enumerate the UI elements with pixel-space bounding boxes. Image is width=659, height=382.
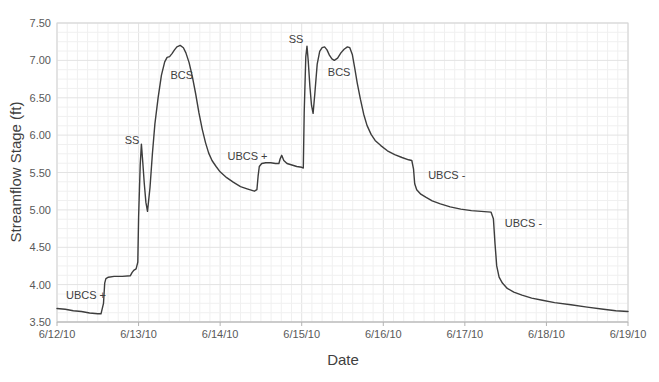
x-tick-label: 6/19/10 xyxy=(610,328,647,340)
annotation-label: BCS xyxy=(170,69,193,81)
y-tick-label: 5.00 xyxy=(30,204,51,216)
annotation-label: SS xyxy=(289,33,304,45)
y-tick-label: 6.50 xyxy=(30,92,51,104)
x-tick-label: 6/18/10 xyxy=(528,328,565,340)
chart-plot-area: 6/12/106/13/106/14/106/15/106/16/106/17/… xyxy=(0,0,659,382)
x-tick-label: 6/12/10 xyxy=(39,328,76,340)
x-tick-label: 6/14/10 xyxy=(202,328,239,340)
x-tick-label: 6/15/10 xyxy=(283,328,320,340)
y-tick-label: 7.50 xyxy=(30,17,51,29)
y-tick-label: 6.00 xyxy=(30,129,51,141)
annotation-label: BCS xyxy=(328,66,351,78)
y-tick-label: 4.00 xyxy=(30,279,51,291)
annotation-label: UBCS + xyxy=(66,289,106,301)
annotation-label: UBCS + xyxy=(227,150,267,162)
annotation-label: SS xyxy=(125,134,140,146)
y-tick-label: 7.00 xyxy=(30,54,51,66)
x-tick-label: 6/16/10 xyxy=(365,328,402,340)
y-axis-title: Streamflow Stage (ft) xyxy=(7,102,24,243)
x-tick-label: 6/17/10 xyxy=(447,328,484,340)
streamflow-stage-chart: 6/12/106/13/106/14/106/15/106/16/106/17/… xyxy=(0,0,659,382)
y-tick-label: 4.50 xyxy=(30,241,51,253)
y-tick-label: 5.50 xyxy=(30,167,51,179)
annotation-label: UBCS - xyxy=(505,217,543,229)
y-tick-label: 3.50 xyxy=(30,316,51,328)
annotation-label: UBCS - xyxy=(428,169,466,181)
x-axis-title: Date xyxy=(327,351,359,368)
x-tick-label: 6/13/10 xyxy=(120,328,157,340)
